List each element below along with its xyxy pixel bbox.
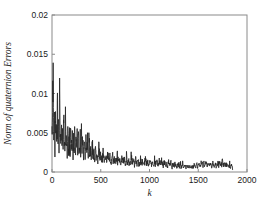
x-tick-label: 1500: [189, 175, 208, 185]
y-tick-label: 0.015: [27, 49, 49, 59]
x-tick-label: 0: [50, 175, 55, 185]
y-tick-label: 0: [43, 167, 48, 177]
x-axis-label: k: [147, 188, 152, 198]
figure-container: 0500100015002000 00.0050.010.0150.02 k N…: [0, 0, 270, 210]
y-tick-label: 0.005: [27, 128, 49, 138]
y-axis-tick-labels: 00.0050.010.0150.02: [27, 10, 49, 177]
x-tick-label: 500: [94, 175, 108, 185]
quaternion-error-plot: 0500100015002000 00.0050.010.0150.02 k N…: [0, 0, 270, 210]
x-tick-label: 2000: [238, 175, 257, 185]
y-tick-label: 0.02: [31, 10, 48, 20]
y-tick-label: 0.01: [31, 89, 48, 99]
x-axis-tick-labels: 0500100015002000: [50, 175, 257, 185]
x-tick-label: 1000: [140, 175, 159, 185]
y-axis-label: Norm of quaternion Errors: [3, 42, 13, 146]
